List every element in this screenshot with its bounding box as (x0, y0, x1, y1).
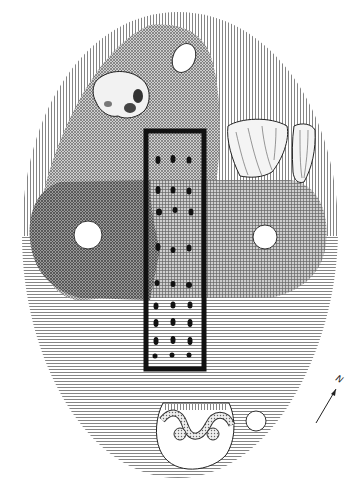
right-grid-band (150, 180, 327, 298)
posthole-bottom (246, 411, 266, 431)
flint-nodule (93, 72, 149, 119)
posthole-right (253, 225, 277, 249)
north-arrow-icon (316, 389, 336, 423)
posthole-left (74, 221, 102, 249)
site-plan-drawing (0, 0, 357, 486)
site-plan: N (0, 0, 357, 486)
